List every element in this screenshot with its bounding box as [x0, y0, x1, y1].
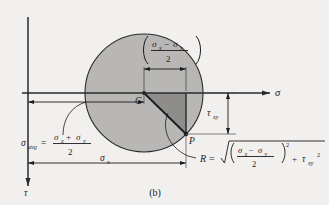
top-denominator: 2	[166, 54, 171, 64]
tau-subscript: xy	[212, 113, 219, 120]
stress-point-label: P	[188, 136, 195, 146]
figure-container: σ τ C P σ x − σ y 2 τ xy σ avg = σ	[0, 0, 329, 205]
sigma-avg-plus: +	[66, 132, 71, 142]
r-denominator: 2	[252, 159, 256, 169]
sigma-x-subscript: x	[106, 158, 110, 165]
tau-axis-label: τ	[24, 188, 28, 198]
mohrs-circle-figure: σ τ C P σ x − σ y 2 τ xy σ avg = σ	[0, 0, 329, 205]
sigma-x-symbol: σ	[100, 153, 105, 163]
r-squared-exponent: 2	[286, 141, 289, 148]
figure-caption: (b)	[149, 187, 161, 199]
sigma-axis-label: σ	[275, 87, 281, 98]
top-num-sigma-y-sub: y	[179, 44, 183, 51]
sigma-avg-num-y-sub: y	[82, 137, 86, 144]
top-num-sigma-y: σ	[173, 39, 178, 49]
radius-symbol: R	[199, 153, 206, 164]
sigma-avg-equals: =	[41, 138, 46, 148]
sigma-avg-denominator: 2	[68, 147, 73, 157]
tau-symbol: τ	[207, 108, 211, 118]
sigma-avg-symbol: σ	[21, 138, 26, 148]
r-tau-exponent: 2	[317, 151, 320, 158]
r-plus: +	[292, 154, 297, 164]
top-num-sigma-x-sub: x	[158, 44, 162, 51]
sigma-avg-num-x-sub: x	[60, 137, 64, 144]
top-num-minus: −	[164, 39, 169, 49]
r-num-minus: −	[249, 145, 254, 155]
r-num-sigma-x-sub: x	[244, 150, 248, 157]
sigma-avg-num-x: σ	[54, 132, 59, 142]
r-tau-subscript: xy	[307, 159, 314, 166]
radius-equals: =	[209, 153, 215, 164]
sigma-avg-subscript: avg	[28, 143, 37, 150]
r-tau-symbol: τ	[302, 154, 306, 164]
r-num-sigma-y-sub: y	[264, 150, 268, 157]
sigma-avg-num-y: σ	[76, 132, 81, 142]
top-num-sigma-x: σ	[152, 39, 157, 49]
